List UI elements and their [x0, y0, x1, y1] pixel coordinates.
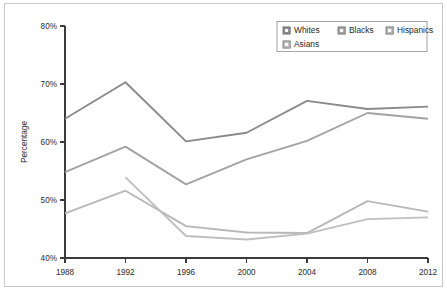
x-tick-label-2008: 2008 — [358, 268, 377, 277]
x-tick-label-2012: 2012 — [419, 268, 438, 277]
series-line-asians — [126, 177, 429, 239]
legend-label: Whites — [294, 25, 320, 35]
legend-label: Hispanics — [397, 25, 433, 35]
legend-label: Blacks — [349, 25, 374, 35]
y-tick-label-40: 40% — [41, 254, 57, 263]
x-tick-label-1996: 1996 — [177, 268, 196, 277]
legend-label: Asians — [294, 39, 319, 49]
y-tick-label-80: 80% — [41, 22, 57, 31]
series-line-whites — [65, 82, 428, 141]
y-tick-label-60: 60% — [41, 138, 57, 147]
legend-swatch-inner-icon — [285, 43, 288, 46]
legend-swatch-inner-icon — [340, 29, 343, 32]
x-tick-label-2004: 2004 — [298, 268, 317, 277]
y-tick-label-70: 70% — [41, 80, 57, 89]
legend-item-whites[interactable]: Whites — [283, 25, 320, 35]
line-chart: Percentage 80% 70% 60% 50% 40% — [0, 0, 447, 292]
legend-swatch-inner-icon — [285, 29, 288, 32]
series-line-hispanics — [65, 191, 428, 233]
y-tick-label-50: 50% — [41, 196, 57, 205]
y-axis-title: Percentage — [20, 121, 29, 163]
x-tick-label-2000: 2000 — [237, 268, 256, 277]
series-line-blacks — [65, 113, 428, 184]
legend-item-asians[interactable]: Asians — [283, 39, 319, 49]
chart-page: Percentage 80% 70% 60% 50% 40% — [0, 0, 447, 292]
legend-swatch-inner-icon — [388, 29, 391, 32]
legend-item-blacks[interactable]: Blacks — [338, 25, 374, 35]
series-layer — [65, 82, 428, 239]
legend-item-hispanics[interactable]: Hispanics — [386, 25, 433, 35]
chart-legend: WhitesBlacksHispanicsAsians — [277, 22, 433, 52]
chart-svg: Percentage 80% 70% 60% 50% 40% — [0, 0, 447, 292]
x-tick-label-1988: 1988 — [56, 268, 75, 277]
x-tick-label-1992: 1992 — [116, 268, 135, 277]
